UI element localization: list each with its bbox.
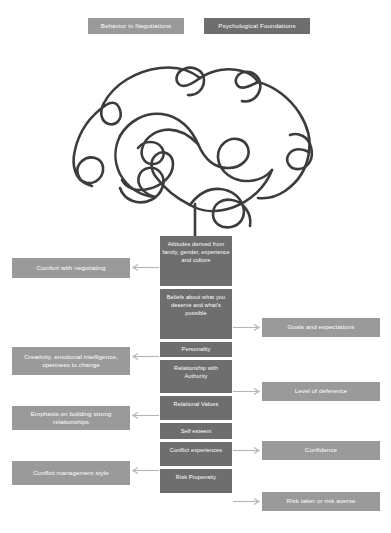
right-box-risk-taker-or-risk-averse[interactable]: Risk taker or risk averse [262, 492, 380, 511]
badge-behavior-in-negotiations: Behavior in Negotiations [88, 18, 184, 34]
badge-psychological-foundations: Psychological Foundations [204, 18, 310, 34]
center-box-self-esteem[interactable]: Self esteem [160, 423, 232, 439]
right-box-goals-and-expectations[interactable]: Goals and expectations [262, 318, 380, 337]
arrow-left-conflict-to-management-style [130, 467, 160, 474]
arrow-left-relational-to-relationships [130, 412, 160, 419]
arrow-left-attitudes-to-comfort [130, 264, 160, 271]
center-box-conflict-experiences[interactable]: Conflict experiences [160, 442, 232, 466]
arrow-left-personality-to-creativity [130, 353, 160, 360]
left-box-creativity[interactable]: Creativity, emotional intelligence, open… [12, 347, 130, 375]
center-box-risk-propensity[interactable]: Risk Propensity [160, 469, 232, 493]
center-box-beliefs[interactable]: Beliefs about what you deserve and what'… [160, 289, 232, 339]
arrow-right-authority-to-deference [232, 388, 262, 395]
left-box-comfort-with-negotiating[interactable]: Comfort with negotiating [12, 258, 130, 278]
arrow-right-risk-to-risk-taker [232, 498, 262, 505]
brain-illustration [52, 44, 342, 244]
left-box-strong-relationships[interactable]: Emphasis on building strong relationship… [12, 406, 130, 430]
arrow-right-beliefs-to-goals [232, 324, 262, 331]
center-column: Attitudes derived from family, gender, e… [160, 236, 232, 496]
center-box-personality[interactable]: Personality [160, 342, 232, 357]
center-box-attitudes[interactable]: Attitudes derived from family, gender, e… [160, 236, 232, 286]
right-box-level-of-deference[interactable]: Level of deference [262, 382, 380, 401]
center-box-relational-values[interactable]: Relational Values [160, 396, 232, 420]
center-box-relationship-with-authority[interactable]: Relationship with Authority [160, 360, 232, 393]
arrow-right-self-esteem-to-confidence [232, 447, 262, 454]
left-box-conflict-management-style[interactable]: Conflict management style [12, 461, 130, 485]
right-box-confidence[interactable]: Confidence [262, 441, 380, 460]
foundations-diagram: Attitudes derived from family, gender, e… [0, 236, 391, 533]
header-badges: Behavior in Negotiations Psychological F… [0, 18, 391, 36]
